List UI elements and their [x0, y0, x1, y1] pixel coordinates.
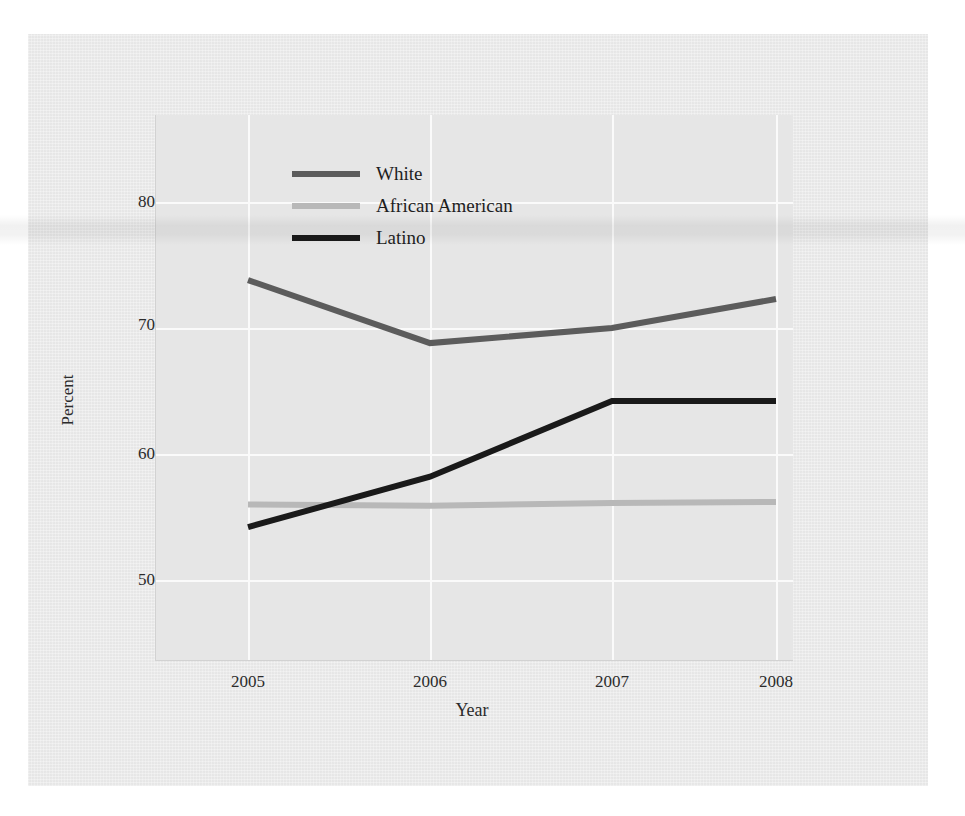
x-tick-label-2006: 2006 [385, 672, 475, 692]
legend-item-white: White [292, 158, 513, 190]
legend-swatch-latino [292, 235, 360, 241]
y-tick-label-50: 50 [95, 570, 155, 590]
legend-label-african-american: African American [376, 195, 513, 217]
legend-label-latino: Latino [376, 227, 426, 249]
x-tick-label-2008: 2008 [731, 672, 821, 692]
legend-swatch-african-american [292, 203, 360, 209]
x-axis-label: Year [427, 700, 517, 721]
axis-line-x [155, 660, 793, 661]
line-chart: 80 70 60 50 2005 2006 2007 2008 Percent … [0, 0, 965, 816]
chart-legend: White African American Latino [292, 158, 513, 254]
x-tick-label-2007: 2007 [567, 672, 657, 692]
y-tick-label-80: 80 [95, 192, 155, 212]
legend-item-latino: Latino [292, 222, 513, 254]
legend-label-white: White [376, 163, 422, 185]
axis-line-y [155, 115, 156, 660]
y-tick-label-70: 70 [95, 315, 155, 335]
legend-item-african-american: African American [292, 190, 513, 222]
x-tick-label-2005: 2005 [203, 672, 293, 692]
y-axis-label: Percent [58, 330, 78, 470]
series-line-latino [248, 401, 776, 527]
series-line-white [248, 280, 776, 343]
y-tick-label-60: 60 [95, 444, 155, 464]
page-canvas: 80 70 60 50 2005 2006 2007 2008 Percent … [0, 0, 965, 816]
legend-swatch-white [292, 171, 360, 177]
